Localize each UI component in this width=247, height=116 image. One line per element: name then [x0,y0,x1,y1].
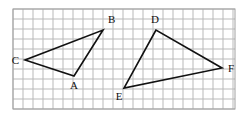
vertex-label-d: D [151,13,159,25]
vertex-label-f: F [228,62,234,74]
vertex-label-c: C [12,54,19,66]
diagram-canvas: ABCDEF [0,0,247,116]
geometry-figure: ABCDEF [0,0,247,116]
vertex-label-b: B [108,13,115,25]
vertex-label-a: A [70,79,78,91]
vertex-label-e: E [116,90,123,102]
